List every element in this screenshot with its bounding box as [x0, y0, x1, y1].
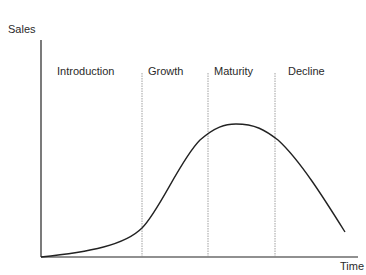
y-axis-label: Sales: [8, 23, 36, 35]
x-axis-label: Time: [340, 260, 364, 272]
stage-label-introduction: Introduction: [57, 65, 114, 77]
product-life-cycle-diagram: [0, 0, 366, 275]
stage-label-growth: Growth: [148, 65, 183, 77]
sales-curve: [41, 124, 345, 257]
stage-label-maturity: Maturity: [214, 65, 253, 77]
stage-label-decline: Decline: [288, 65, 325, 77]
